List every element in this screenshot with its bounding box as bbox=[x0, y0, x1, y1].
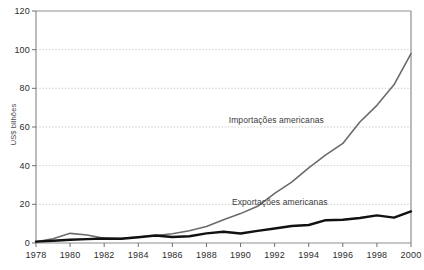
y-axis-tick-label: 80 bbox=[0, 83, 30, 93]
y-axis-tick-label: 60 bbox=[0, 122, 30, 132]
x-axis-tick-label: 2000 bbox=[388, 250, 424, 260]
y-axis-tick-label: 100 bbox=[0, 45, 30, 55]
series-label-exports: Exportações americanas bbox=[232, 197, 328, 207]
series-line bbox=[36, 211, 411, 241]
y-axis-tick-label: 20 bbox=[0, 199, 30, 209]
y-axis-tick-label: 40 bbox=[0, 161, 30, 171]
plot-svg bbox=[0, 0, 424, 270]
series-label-imports: Importações americanas bbox=[229, 115, 324, 125]
series-line bbox=[36, 54, 411, 242]
chart-container: US$ bilhões 020406080100120 197819801982… bbox=[0, 0, 424, 270]
y-axis-tick-label: 120 bbox=[0, 6, 30, 16]
y-axis-tick-label: 0 bbox=[0, 238, 30, 248]
